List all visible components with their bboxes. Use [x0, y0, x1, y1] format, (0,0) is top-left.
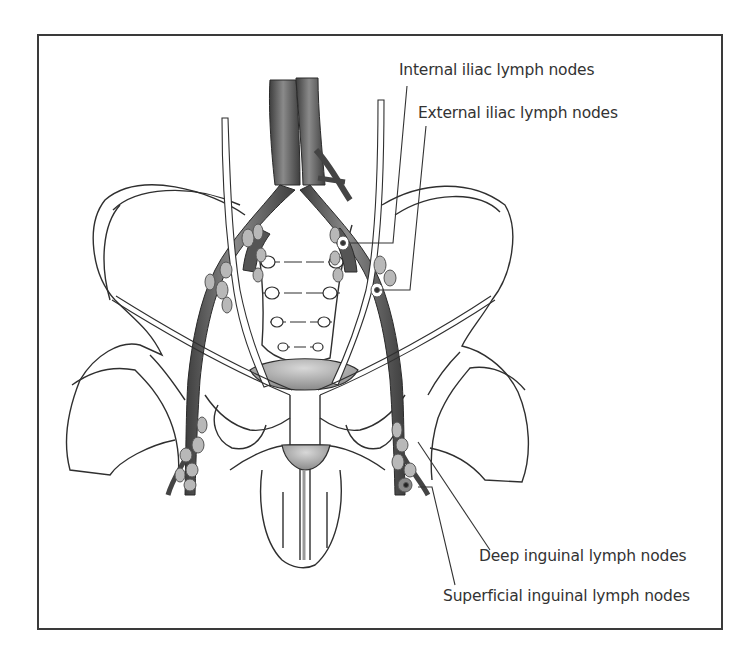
- prostate: [282, 445, 330, 470]
- label-internal-iliac-lymph-nodes: Internal iliac lymph nodes: [399, 61, 594, 79]
- pelvis-illustration: [0, 0, 752, 668]
- label-deep-inguinal-lymph-nodes: Deep inguinal lymph nodes: [479, 547, 686, 565]
- sacral-foramina: [261, 256, 343, 351]
- label-external-iliac-lymph-nodes: External iliac lymph nodes: [418, 104, 618, 122]
- leader-lines: [350, 86, 490, 585]
- label-superficial-inguinal-lymph-nodes: Superficial inguinal lymph nodes: [443, 587, 690, 605]
